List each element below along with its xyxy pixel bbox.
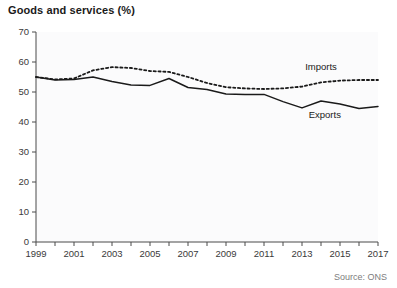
chart-card: Goods and services (%) 010203040506070 1… bbox=[0, 0, 397, 288]
x-tick-label: 1999 bbox=[25, 248, 46, 259]
x-tick-label: 2013 bbox=[291, 248, 312, 259]
y-tick-label: 10 bbox=[18, 206, 29, 217]
y-tick-label: 0 bbox=[24, 236, 29, 247]
source-note: Source: ONS bbox=[334, 272, 387, 282]
x-tick-labels: 1999200120032005200720092011201320152017 bbox=[25, 248, 388, 259]
x-tick-label: 2017 bbox=[367, 248, 388, 259]
x-tick-label: 2007 bbox=[177, 248, 198, 259]
x-tick-label: 2003 bbox=[101, 248, 122, 259]
series-annotation-imports: Imports bbox=[305, 61, 337, 72]
y-axis: 010203040506070 bbox=[18, 26, 36, 247]
y-tick-label: 30 bbox=[18, 146, 29, 157]
x-tick-label: 2009 bbox=[215, 248, 236, 259]
series-annotation-exports: Exports bbox=[309, 109, 341, 120]
y-tick-label: 70 bbox=[18, 26, 29, 37]
x-tick-marks bbox=[36, 242, 378, 246]
x-tick-label: 2015 bbox=[329, 248, 350, 259]
y-tick-marks bbox=[32, 32, 36, 242]
y-tick-label: 60 bbox=[18, 56, 29, 67]
y-tick-label: 20 bbox=[18, 176, 29, 187]
x-tick-label: 2011 bbox=[254, 248, 274, 259]
x-axis: 1999200120032005200720092011201320152017 bbox=[25, 242, 388, 259]
plot-area: 010203040506070 199920012003200520072009… bbox=[0, 0, 397, 288]
y-tick-label: 40 bbox=[18, 116, 29, 127]
x-tick-label: 2001 bbox=[63, 248, 84, 259]
line-chart-svg: 010203040506070 199920012003200520072009… bbox=[0, 0, 397, 288]
y-tick-label: 50 bbox=[18, 86, 29, 97]
x-tick-label: 2005 bbox=[139, 248, 160, 259]
y-tick-labels: 010203040506070 bbox=[18, 26, 29, 247]
